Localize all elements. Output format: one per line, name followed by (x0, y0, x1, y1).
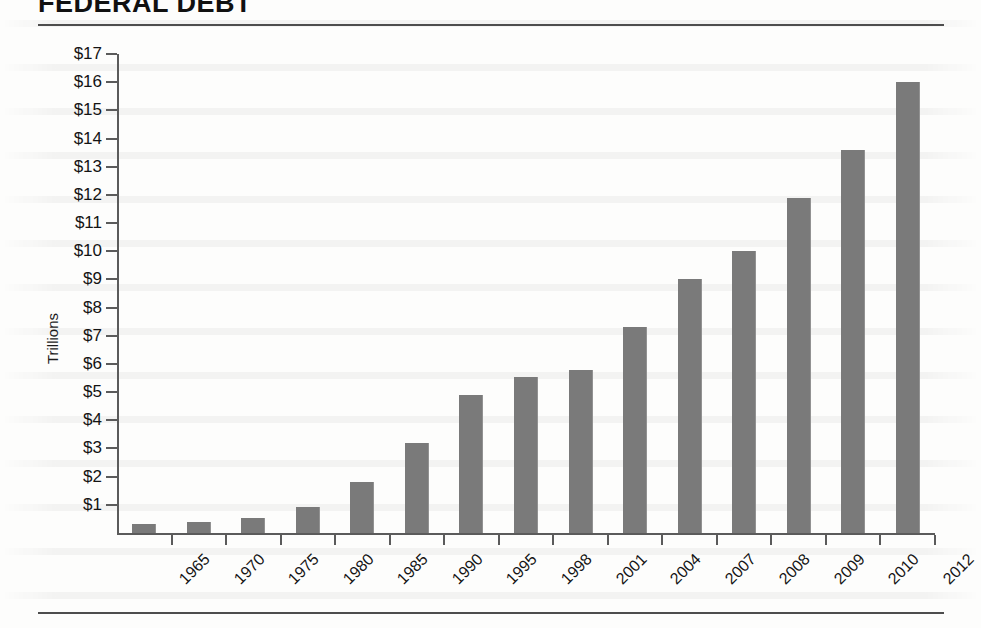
x-axis-labels: 1965197019751980198519901995199820012004… (0, 0, 981, 628)
page-canvas: FEDERAL DEBT Trillions $1$2$3$4$5$6$7$8$… (0, 0, 981, 628)
x-axis-tick-label: 2010 (886, 551, 922, 587)
x-axis-tick-label: 1990 (449, 551, 485, 587)
x-axis-tick-label: 2009 (831, 551, 867, 587)
x-axis-tick-label: 1975 (286, 551, 322, 587)
x-axis-tick-label: 1995 (504, 551, 540, 587)
x-axis-tick-label: 2007 (722, 551, 758, 587)
x-axis-tick-label: 1970 (231, 551, 267, 587)
x-axis-tick-label: 1980 (340, 551, 376, 587)
x-axis-tick-label: 2008 (777, 551, 813, 587)
x-axis-tick-label: 2004 (667, 551, 703, 587)
x-axis-tick-label: 1985 (395, 551, 431, 587)
x-axis-tick-label: 1965 (177, 551, 213, 587)
x-axis-tick-label: 2001 (613, 551, 649, 587)
federal-debt-bar-chart: Trillions $1$2$3$4$5$6$7$8$9$10$11$12$13… (0, 0, 981, 628)
x-axis-tick-label: 1998 (558, 551, 594, 587)
x-axis-tick-label: 2012 (940, 551, 976, 587)
